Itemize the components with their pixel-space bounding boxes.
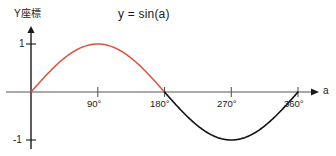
- sine-curve-red-path: [31, 44, 165, 92]
- y-axis-label: Y座標: [14, 9, 41, 19]
- x-axis-arrowhead: [311, 88, 319, 95]
- y-tick-label-one: 1: [19, 39, 25, 49]
- sine-plot-canvas: [0, 0, 336, 156]
- x-tick-label-360: 360°: [284, 99, 304, 109]
- y-axis-arrowhead: [27, 26, 34, 33]
- x-tick-label-180: 180°: [150, 99, 170, 109]
- x-tick-label-90: 90°: [87, 99, 101, 109]
- sine-chart-figure: y = sin(a) Y座標 a 90° 180° 270° 360° 1 -1: [0, 0, 336, 156]
- x-tick-label-270: 270°: [217, 99, 237, 109]
- y-tick-label-negative-one: -1: [13, 135, 22, 145]
- chart-title: y = sin(a): [118, 8, 170, 20]
- x-axis-label: a: [323, 86, 329, 96]
